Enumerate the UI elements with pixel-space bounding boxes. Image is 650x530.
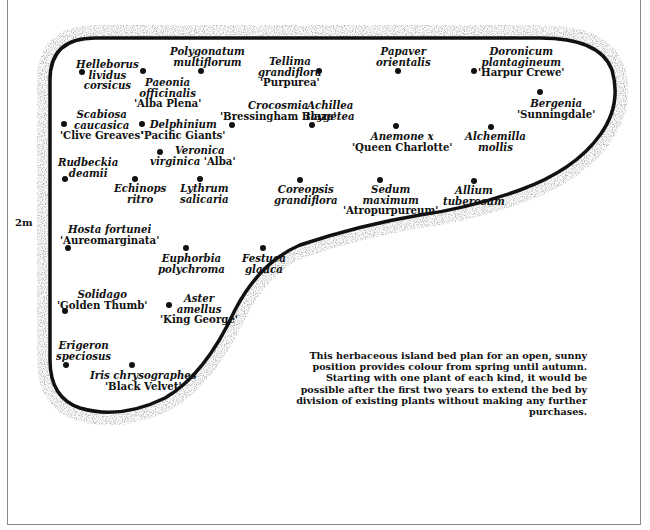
plant-tellima: Tellima grandiflora 'Purpurea' [258, 56, 322, 88]
plant-bergenia: Bergenia 'Sunningdale' [517, 98, 595, 119]
plant-marker [61, 121, 67, 127]
plant-marker [471, 68, 477, 74]
plant-veronica: Veronica virginica 'Alba' [150, 145, 236, 166]
plant-marker [316, 68, 322, 74]
plant-sedum: Sedum maximum 'Atropurpureum' [343, 184, 438, 216]
plant-euphorbia: Euphorbia polychroma [158, 253, 225, 274]
plant-lythrum: Lythrum salicaria [180, 183, 229, 204]
plant-scabiosa: Scabiosa caucasica 'Clive Greaves' [60, 109, 143, 141]
plant-rudbeckia: Rudbeckia deamii [58, 157, 118, 178]
plant-marker [395, 68, 401, 74]
plant-marker [183, 245, 189, 251]
plant-marker [129, 362, 135, 368]
plant-achillea: Achillea taygetea [306, 100, 355, 121]
plant-erigeron: Erigeron speciosus [56, 340, 111, 361]
plant-marker [393, 123, 399, 129]
plant-helleborus: Helleborus lividus corsicus [76, 59, 139, 91]
plant-marker [62, 176, 68, 182]
plant-festuca: Festuca glauca [242, 253, 286, 274]
plant-coreopsis: Coreopsis grandiflora [274, 184, 338, 205]
plant-polygonatum: Polygonatum multiflorum [170, 46, 245, 67]
plant-marker [537, 89, 543, 95]
plan-caption: This herbaceous island bed plan for an o… [283, 350, 587, 417]
plant-iris: Iris chrysographes 'Black Velvet' [90, 370, 197, 391]
scale-label: 2m [15, 217, 33, 228]
plant-paeonia: Paeonia officinalis 'Alba Plena' [134, 77, 201, 109]
plant-marker [63, 362, 69, 368]
plant-delphinium: Delphinium 'Pacific Giants' [141, 119, 225, 140]
plant-marker [229, 122, 235, 128]
plant-marker [198, 68, 204, 74]
plant-aster: Aster amellus 'King George' [160, 293, 238, 325]
plant-marker [62, 308, 68, 314]
plant-marker [65, 245, 71, 251]
plant-marker [140, 68, 146, 74]
plant-solidago: Solidago 'Golden Thumb' [57, 289, 147, 310]
plant-hosta: Hosta fortunei 'Aureomarginata' [60, 224, 159, 245]
plant-marker [309, 122, 315, 128]
plant-alchemilla: Alchemilla mollis [465, 131, 526, 152]
plant-papaver: Papaver orientalis [376, 46, 431, 67]
plant-allium: Allium tuberosum [443, 185, 505, 206]
plant-marker [79, 69, 85, 75]
plant-marker [260, 245, 266, 251]
plant-doronicum: Doronicum plantagineum 'Harpur Crewe' [478, 46, 564, 78]
plant-anemone: Anemone x 'Queen Charlotte' [352, 131, 452, 152]
plant-echinops: Echinops ritro [114, 183, 166, 204]
